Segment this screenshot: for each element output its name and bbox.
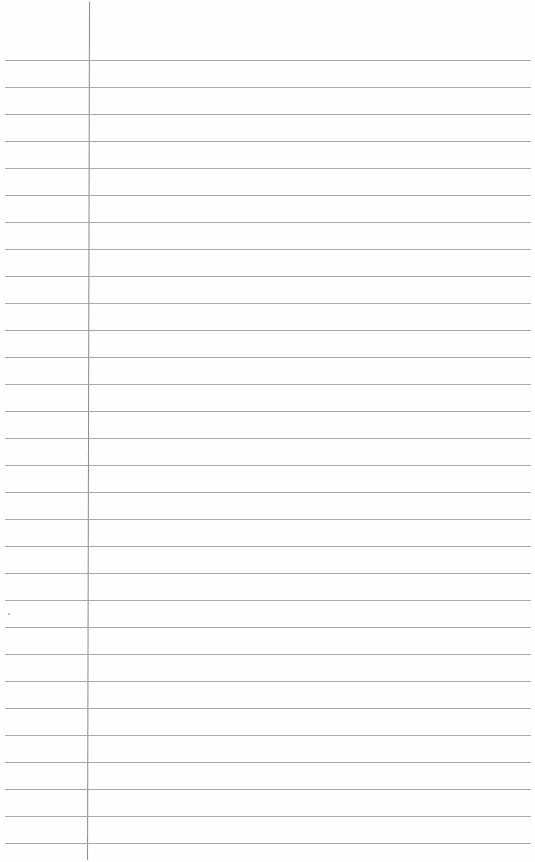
ruled-line — [5, 816, 531, 817]
ruled-line — [5, 168, 531, 169]
ruled-line — [5, 546, 531, 547]
ruled-line — [5, 276, 531, 277]
ruled-line — [5, 735, 531, 736]
ruled-line — [5, 411, 531, 412]
ruled-line — [5, 87, 531, 88]
ruled-line — [5, 141, 531, 142]
ruled-line — [5, 654, 531, 655]
ruled-line — [5, 627, 531, 628]
ruled-line — [5, 762, 531, 763]
ruled-line — [5, 465, 531, 466]
ruled-line — [5, 222, 531, 223]
ruled-line — [5, 303, 531, 304]
ruled-line — [5, 249, 531, 250]
ruled-line — [5, 195, 531, 196]
ruled-line — [5, 789, 531, 790]
ruled-line — [5, 519, 531, 520]
ruled-line — [5, 114, 531, 115]
lined-paper-page — [0, 0, 535, 862]
ruled-line — [5, 330, 531, 331]
paper-speck — [8, 613, 10, 615]
ruled-line — [5, 708, 531, 709]
margin-line — [87, 2, 90, 860]
ruled-line — [5, 384, 531, 385]
ruled-line — [5, 438, 531, 439]
ruled-line — [5, 573, 531, 574]
ruled-line — [5, 681, 531, 682]
ruled-line — [5, 600, 531, 601]
ruled-line — [5, 357, 531, 358]
ruled-line — [5, 60, 531, 61]
ruled-line — [5, 843, 531, 844]
ruled-line — [5, 492, 531, 493]
